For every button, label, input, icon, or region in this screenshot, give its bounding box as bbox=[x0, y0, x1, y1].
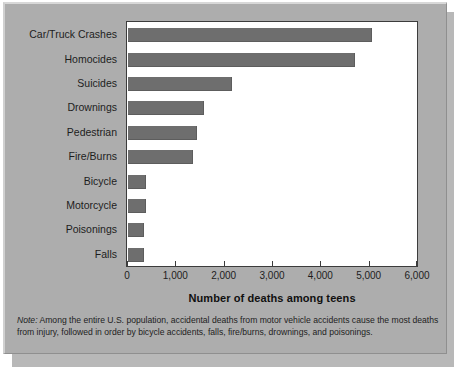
x-axis-tick-label: 3,000 bbox=[259, 270, 284, 281]
x-axis-tick-labels: 01,0002,0003,0004,0005,0006,000 bbox=[126, 270, 418, 284]
y-axis-label: Poisonings bbox=[66, 222, 117, 236]
bar-row bbox=[128, 28, 418, 42]
bar bbox=[128, 101, 204, 115]
y-axis-labels: Car/Truck CrashesHomocidesSuicidesDrowni… bbox=[5, 21, 122, 267]
y-axis-label: Falls bbox=[95, 247, 117, 261]
figure-root: Car/Truck CrashesHomocidesSuicidesDrowni… bbox=[0, 0, 454, 370]
bar-row bbox=[128, 199, 418, 213]
bar bbox=[128, 126, 197, 140]
bar-row bbox=[128, 150, 418, 164]
plot-area bbox=[126, 21, 418, 267]
y-axis-label: Homocides bbox=[64, 52, 117, 66]
y-axis-label: Bicycle bbox=[84, 174, 117, 188]
x-axis-tick bbox=[127, 261, 128, 266]
note-text: Among the entire U.S. population, accide… bbox=[17, 315, 438, 337]
bar bbox=[128, 150, 193, 164]
y-axis-label: Suicides bbox=[77, 76, 117, 90]
x-axis-tick bbox=[369, 261, 370, 266]
bar bbox=[128, 53, 355, 67]
bar-row bbox=[128, 126, 418, 140]
bar-row bbox=[128, 53, 418, 67]
x-axis-tick-label: 5,000 bbox=[356, 270, 381, 281]
plot-inner bbox=[127, 22, 417, 266]
chart-panel: Car/Truck CrashesHomocidesSuicidesDrowni… bbox=[3, 2, 447, 354]
x-axis-title: Number of deaths among teens bbox=[126, 292, 418, 304]
bar bbox=[128, 199, 146, 213]
x-axis-tick-label: 1,000 bbox=[163, 270, 188, 281]
x-axis-tick bbox=[416, 261, 417, 266]
x-axis-tick bbox=[175, 261, 176, 266]
bar-row bbox=[128, 101, 418, 115]
y-axis-label: Drownings bbox=[67, 100, 117, 114]
note-label: Note: bbox=[17, 315, 38, 325]
y-axis-label: Fire/Burns bbox=[69, 149, 117, 163]
bar bbox=[128, 248, 144, 262]
x-axis-tick-label: 0 bbox=[124, 270, 130, 281]
bar bbox=[128, 28, 372, 42]
bar bbox=[128, 175, 146, 189]
bar-series bbox=[128, 23, 416, 265]
x-axis-tick bbox=[224, 261, 225, 266]
bar bbox=[128, 77, 232, 91]
y-axis-label: Pedestrian bbox=[67, 125, 117, 139]
bar-row bbox=[128, 223, 418, 237]
bar bbox=[128, 223, 144, 237]
chart-note: Note: Among the entire U.S. population, … bbox=[17, 315, 445, 338]
x-axis-tick-label: 2,000 bbox=[211, 270, 236, 281]
y-axis-label: Motorcycle bbox=[66, 198, 117, 212]
bar-row bbox=[128, 248, 418, 262]
x-axis-tick bbox=[272, 261, 273, 266]
bar-row bbox=[128, 175, 418, 189]
x-axis-tick-label: 6,000 bbox=[404, 270, 429, 281]
x-axis-tick bbox=[320, 261, 321, 266]
y-axis-label: Car/Truck Crashes bbox=[29, 27, 117, 41]
bar-row bbox=[128, 77, 418, 91]
x-axis-tick-label: 4,000 bbox=[308, 270, 333, 281]
